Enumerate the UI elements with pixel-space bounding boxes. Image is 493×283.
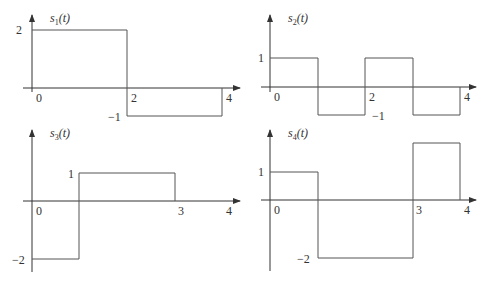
y-tick-label: −2 bbox=[12, 253, 25, 267]
plot-s1: s1(t) 2 −1 0 2 4 bbox=[16, 11, 240, 124]
y-tick-label: 1 bbox=[68, 167, 74, 181]
x-tick-label: 3 bbox=[416, 203, 422, 217]
x-tick-label: 4 bbox=[464, 203, 470, 217]
y-tick-label: 1 bbox=[258, 165, 264, 179]
y-tick-label: −2 bbox=[297, 252, 310, 266]
x-tick-label: 4 bbox=[226, 204, 232, 218]
y-tick-label: 1 bbox=[258, 51, 264, 65]
plot-title: s2(t) bbox=[288, 11, 308, 27]
plot-s2: s2(t) 1 −1 0 2 4 bbox=[258, 11, 476, 123]
x-tick-label: 4 bbox=[226, 91, 232, 105]
plot-s3: s3(t) 1 −2 0 3 4 bbox=[12, 126, 240, 272]
x-tick-label: 2 bbox=[369, 90, 375, 104]
x-tick-label: 2 bbox=[131, 91, 137, 105]
signal-waveform bbox=[32, 173, 175, 259]
plot-title: s3(t) bbox=[50, 126, 70, 142]
x-tick-label: 0 bbox=[36, 204, 42, 218]
signal-diagram: s1(t) 2 −1 0 2 4 s2(t) 1 −1 0 2 4 s3(t) … bbox=[0, 0, 493, 283]
y-tick-label: −1 bbox=[372, 109, 385, 123]
x-tick-label: 3 bbox=[178, 204, 184, 218]
plot-s4: s4(t) 1 −2 0 3 4 bbox=[258, 126, 476, 271]
x-tick-label: 0 bbox=[274, 90, 280, 104]
x-tick-label: 4 bbox=[464, 90, 470, 104]
signal-waveform bbox=[32, 30, 222, 116]
x-tick-label: 0 bbox=[36, 91, 42, 105]
y-tick-label: −1 bbox=[108, 110, 121, 124]
x-tick-label: 0 bbox=[274, 203, 280, 217]
y-tick-label: 2 bbox=[16, 23, 22, 37]
plot-title: s1(t) bbox=[50, 11, 70, 27]
plot-title: s4(t) bbox=[288, 126, 308, 142]
